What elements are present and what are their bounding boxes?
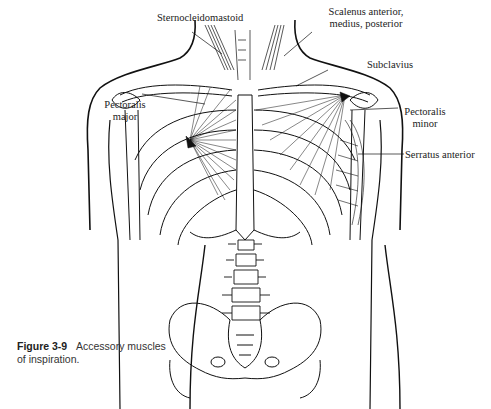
figure-caption: Figure 3-9 Accessory muscles of inspirat… — [17, 340, 187, 366]
label-subclavius: Subclavius — [367, 59, 413, 71]
figure-caption-line2: of inspiration. — [17, 353, 79, 365]
label-pectoralis-minor-line2: minor — [400, 118, 450, 130]
label-pectoralis-major-line2: major — [100, 111, 150, 123]
figure-number: Figure 3-9 — [17, 340, 67, 352]
label-serratus-anterior: Serratus anterior — [405, 149, 475, 161]
label-sternocleidomastoid: Sternocleidomastoid — [157, 12, 243, 24]
label-pectoralis-minor-line1: Pectoralis — [400, 106, 450, 118]
ribs — [135, 110, 355, 245]
sternum — [236, 95, 254, 240]
figure-caption-line1: Accessory muscles — [76, 340, 166, 352]
label-scalenus-line1: Scalenus anterior, — [318, 6, 414, 18]
label-pectoralis-minor: Pectoralis minor — [400, 106, 450, 130]
neck-muscles — [205, 25, 284, 80]
pectoralis-major-fibers — [186, 86, 236, 200]
label-pectoralis-major-line1: Pectoralis — [100, 99, 150, 111]
spine — [222, 240, 270, 320]
pectoralis-minor-fibers — [256, 92, 350, 195]
label-scalenus-line2: medius, posterior — [318, 18, 414, 30]
label-pectoralis-major: Pectoralis major — [100, 99, 150, 123]
label-scalenus: Scalenus anterior, medius, posterior — [318, 6, 414, 30]
